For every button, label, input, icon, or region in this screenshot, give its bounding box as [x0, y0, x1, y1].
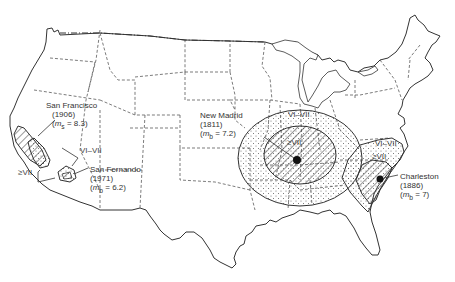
- charleston-ge-vii-label: ≥VII: [372, 152, 386, 161]
- west-ge-vii-label: ≥VII: [18, 168, 32, 177]
- quake-name: San Francisco: [46, 101, 97, 110]
- quake-year: (1906): [46, 110, 97, 119]
- mag-value: = 6.2): [103, 183, 126, 192]
- quake-name: New Madrid: [200, 111, 243, 120]
- quake-magnitude: (mb = 7): [400, 190, 439, 202]
- quake-year: (1886): [400, 181, 439, 190]
- charleston-vi-vii-label: VI–VII: [375, 139, 397, 148]
- madrid-ge-vii-label: ≥VII: [287, 138, 301, 147]
- quake-year: (1811): [200, 120, 243, 129]
- san-francisco-label: San Francisco (1906) (ms = 8.3): [46, 101, 97, 131]
- mag-value: = 8.3): [65, 119, 88, 128]
- madrid-vi-vii-label: VI–VII: [288, 110, 310, 119]
- charleston-label: Charleston (1886) (mb = 7): [400, 172, 439, 202]
- mag-value: = 7): [413, 190, 429, 199]
- quake-year: (1971): [90, 174, 141, 183]
- new-madrid-label: New Madrid (1811) (mb = 7.2): [200, 111, 243, 141]
- quake-magnitude: (ms = 8.3): [46, 119, 97, 131]
- quake-magnitude: (mb = 7.2): [200, 129, 243, 141]
- new-madrid-epicenter: [293, 156, 301, 164]
- charleston-epicenter: [377, 176, 384, 183]
- quake-magnitude: (mb = 6.2): [90, 183, 141, 195]
- san-fernando-label: San Fernando (1971) (mb = 6.2): [90, 165, 141, 195]
- west-vi-vii-label: VI–VII: [80, 146, 102, 155]
- new-madrid-ge-vii-zone: [264, 126, 336, 184]
- mag-value: = 7.2): [213, 129, 236, 138]
- quake-name: Charleston: [400, 172, 439, 181]
- quake-name: San Fernando: [90, 165, 141, 174]
